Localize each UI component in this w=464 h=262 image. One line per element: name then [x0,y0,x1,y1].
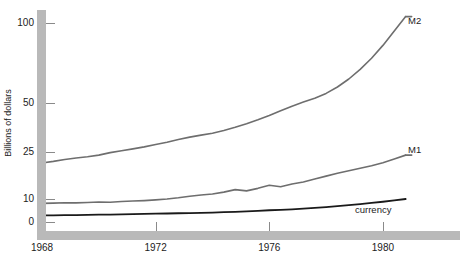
y-axis-bar [37,10,46,240]
x-tick-1972 [156,222,157,231]
series-label-m1: M1 [408,145,421,155]
x-tick-1976 [269,222,270,231]
y-tick-label-100: 100 [0,18,34,28]
chart-container: 0102550100 1968197219761980 Billions of … [0,0,464,262]
x-tick-label-1976: 1976 [249,243,289,253]
x-tick-label-1980: 1980 [363,243,403,253]
series-label-currency: currency [355,205,391,215]
y-tick-0 [46,222,55,223]
y-tick-25 [46,152,55,153]
series-line-m1 [42,155,406,203]
y-axis-title: Billions of dollars [3,73,13,173]
y-tick-label-wrap: 0 [0,217,34,227]
series-label-m2: M2 [408,16,421,26]
y-tick-label-0: 0 [0,217,34,227]
y-tick-label-wrap: 100 [0,18,34,28]
y-tick-label-wrap: 10 [0,194,34,204]
series-line-m2 [42,17,406,163]
y-tick-100 [46,23,55,24]
x-tick-label-1972: 1972 [136,243,176,253]
y-tick-10 [46,199,55,200]
y-tick-label-10: 10 [0,194,34,204]
x-tick-1980 [383,222,384,231]
y-tick-50 [46,103,55,104]
x-tick-label-1968: 1968 [22,243,62,253]
chart-plot-area [0,0,464,262]
x-axis-bar [37,231,460,240]
